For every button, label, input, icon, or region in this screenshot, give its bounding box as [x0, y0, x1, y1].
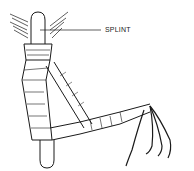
splint-diagonal [46, 62, 92, 128]
feathers [10, 12, 68, 38]
toes [126, 106, 171, 166]
splint-top [31, 12, 45, 44]
splint-label: SPLINT [105, 26, 131, 33]
leg-drawing [0, 0, 194, 171]
splinted-leg-illustration [0, 0, 194, 171]
